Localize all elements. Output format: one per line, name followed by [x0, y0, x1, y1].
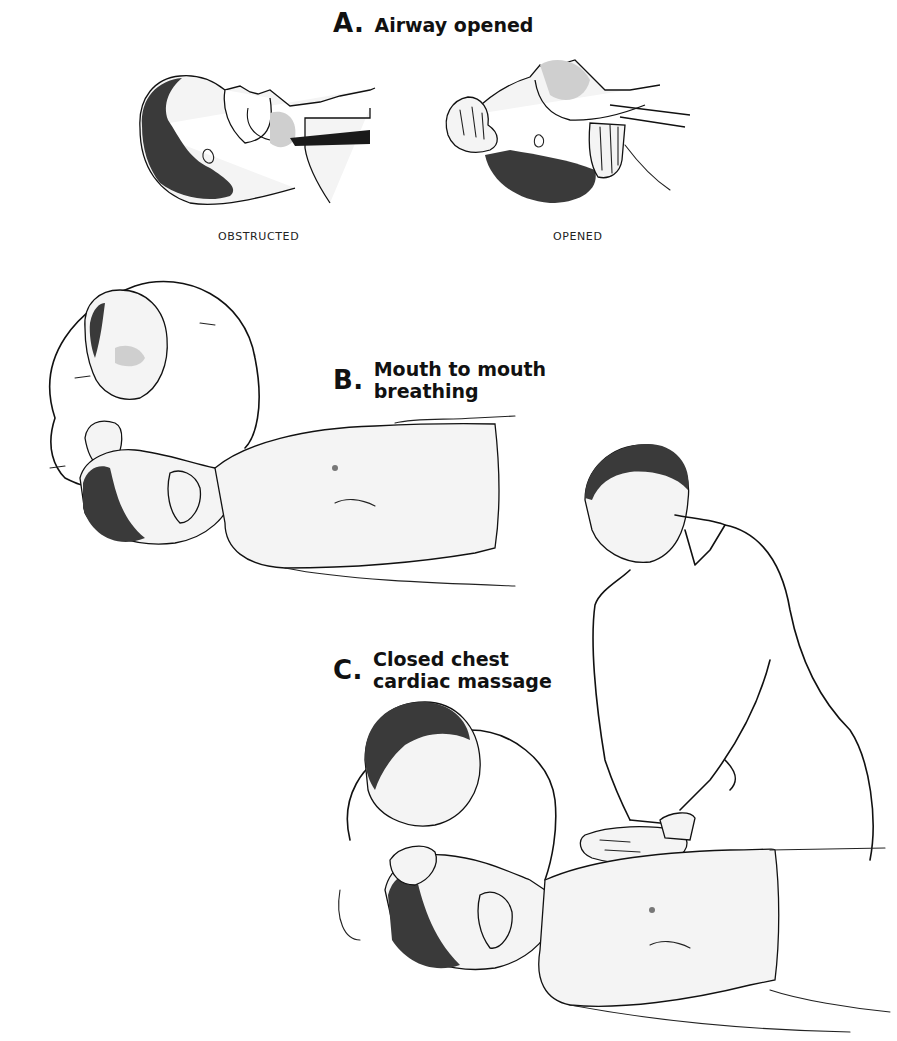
section-a-heading: A. Airway opened: [333, 8, 533, 38]
opened-airway-illustration: [430, 55, 690, 215]
obstructed-airway-illustration: [130, 68, 390, 218]
obstructed-caption: OBSTRUCTED: [218, 230, 299, 243]
cardiac-massage-illustration: [330, 440, 897, 1040]
section-a-title: Airway opened: [374, 14, 533, 36]
section-a-letter: A.: [333, 8, 364, 38]
opened-caption: OPENED: [553, 230, 603, 243]
